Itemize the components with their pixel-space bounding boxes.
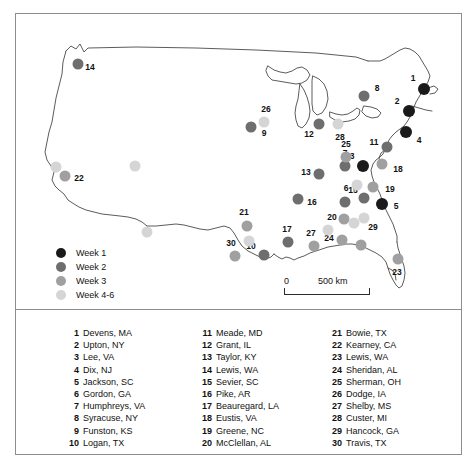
map-dot-12[interactable] xyxy=(314,119,325,130)
camp-list-item: 19Greene, NC xyxy=(197,425,312,437)
map-dot-label-16: 16 xyxy=(307,197,316,207)
camp-list-item-number: 17 xyxy=(197,400,212,412)
map-dot-u4[interactable] xyxy=(130,161,141,172)
camp-list-item: 23Lewis, WA xyxy=(327,351,442,363)
map-dot-14[interactable] xyxy=(73,59,84,70)
map-dot-13[interactable] xyxy=(314,169,325,180)
map-dot-6[interactable] xyxy=(340,197,351,208)
legend-item-week-1: Week 1 xyxy=(56,246,114,260)
legend-swatch-week-3 xyxy=(56,276,66,286)
camp-list-item-number: 25 xyxy=(327,376,342,388)
map-dot-u6[interactable] xyxy=(323,225,334,236)
camp-list-item-number: 19 xyxy=(197,425,212,437)
map-dot-u7[interactable] xyxy=(349,218,360,229)
map-dot-22[interactable] xyxy=(60,171,71,182)
camp-list-item: 25Sherman, OH xyxy=(327,376,442,388)
camp-list-column-2: 11Meade, MD12Grant, IL13Taylor, KY14Lewi… xyxy=(197,327,312,455)
camp-list-item: 2Upton, NY xyxy=(64,339,179,351)
map-dot-label-29: 29 xyxy=(368,222,377,232)
camp-list-item: 4Dix, NJ xyxy=(64,364,179,376)
camp-list-item-number: 13 xyxy=(197,351,212,363)
map-dot-8[interactable] xyxy=(359,91,370,102)
map-dot-u2[interactable] xyxy=(244,236,255,247)
camp-list-item-number: 23 xyxy=(327,351,342,363)
map-dot-u3[interactable] xyxy=(142,227,153,238)
map-dot-11[interactable] xyxy=(382,142,393,153)
camp-list-item-name: Kearney, CA xyxy=(346,339,396,351)
camp-list-item: 5Jackson, SC xyxy=(64,376,179,388)
map-dot-30[interactable] xyxy=(230,251,241,262)
camp-list-item-name: Upton, NY xyxy=(83,339,125,351)
map-legend: Week 1 Week 2 Week 3 Week 4-6 xyxy=(56,246,114,302)
camp-list-item-name: Greene, NC xyxy=(216,425,264,437)
camp-list-item-name: Lee, VA xyxy=(83,351,114,363)
camp-list-item-number: 28 xyxy=(327,412,342,424)
map-dot-label-14: 14 xyxy=(85,62,94,72)
map-dot-u8[interactable] xyxy=(356,240,367,251)
camp-list-item-name: Humphreys, VA xyxy=(83,400,145,412)
map-dot-15[interactable] xyxy=(359,193,370,204)
camp-list-column-1: 1Devens, MA2Upton, NY3Lee, VA4Dix, NJ5Ja… xyxy=(64,327,179,455)
map-dot-21[interactable] xyxy=(242,221,253,232)
map-dot-u5[interactable] xyxy=(352,180,363,191)
map-dot-3[interactable] xyxy=(357,160,369,172)
camp-list: 1Devens, MA2Upton, NY3Lee, VA4Dix, NJ5Ja… xyxy=(16,311,461,455)
camp-list-item: 27Shelby, MS xyxy=(327,400,442,412)
map-dot-25[interactable] xyxy=(341,152,352,163)
camp-list-item-name: Funston, KS xyxy=(83,425,133,437)
camp-list-item-number: 30 xyxy=(327,437,342,449)
scale-bar-zero-label: 0 xyxy=(284,276,289,286)
legend-label-week-2: Week 2 xyxy=(76,262,106,272)
camp-list-item-number: 3 xyxy=(64,351,79,363)
legend-label-week-1: Week 1 xyxy=(76,248,106,258)
camp-list-item: 21Bowie, TX xyxy=(327,327,442,339)
camp-list-item-number: 4 xyxy=(64,364,79,376)
camp-list-item-name: Hancock, GA xyxy=(346,425,399,437)
camp-list-item: 29Hancock, GA xyxy=(327,425,442,437)
map-dot-18[interactable] xyxy=(377,159,388,170)
map-dot-16[interactable] xyxy=(293,194,304,205)
map-dot-label-1: 1 xyxy=(411,73,416,83)
map-dot-24[interactable] xyxy=(337,235,348,246)
map-dot-label-23: 23 xyxy=(392,267,401,277)
legend-swatch-week-1 xyxy=(56,248,66,258)
map-dot-28[interactable] xyxy=(333,119,344,130)
camp-list-item-number: 16 xyxy=(197,388,212,400)
map-dot-label-26: 26 xyxy=(261,104,270,114)
map-dot-17[interactable] xyxy=(283,237,294,248)
map-dot-2[interactable] xyxy=(403,105,415,117)
camp-list-item-name: Devens, MA xyxy=(83,327,132,339)
scale-bar-distance-label: 500 km xyxy=(318,276,348,286)
camp-list-item-number: 20 xyxy=(197,437,212,449)
map-dot-23[interactable] xyxy=(393,254,404,265)
map-dot-9[interactable] xyxy=(246,122,257,133)
camp-list-item-number: 7 xyxy=(64,400,79,412)
map-dot-label-4: 4 xyxy=(417,135,422,145)
map-dot-19[interactable] xyxy=(368,182,379,193)
camp-list-item-name: Sherman, OH xyxy=(346,376,401,388)
camp-list-item-number: 14 xyxy=(197,364,212,376)
map-dot-5[interactable] xyxy=(376,198,388,210)
camp-list-item-name: Travis, TX xyxy=(346,437,387,449)
scale-bar-labels: 0 500 km xyxy=(284,276,376,288)
map-dot-label-13: 13 xyxy=(301,167,310,177)
camp-list-item: 14Lewis, WA xyxy=(197,364,312,376)
map-dot-4[interactable] xyxy=(400,126,412,138)
map-dot-10[interactable] xyxy=(259,250,270,261)
camp-list-item: 30Travis, TX xyxy=(327,437,442,449)
camp-list-item: 17Beauregard, LA xyxy=(197,400,312,412)
legend-label-week-4-6: Week 4-6 xyxy=(76,290,114,300)
camp-list-item-name: Sheridan, AL xyxy=(346,364,398,376)
camp-list-item-name: Eustis, VA xyxy=(216,412,257,424)
map-dot-u1[interactable] xyxy=(51,162,62,173)
camp-list-item-number: 2 xyxy=(64,339,79,351)
scale-bar-ruler xyxy=(284,288,370,295)
camp-list-item: 28Custer, MI xyxy=(327,412,442,424)
camp-list-item-name: Lewis, WA xyxy=(346,351,388,363)
map-dot-label-19: 19 xyxy=(385,184,394,194)
map-dot-1[interactable] xyxy=(418,83,430,95)
camp-list-item-name: Lewis, WA xyxy=(216,364,258,376)
map-dot-27[interactable] xyxy=(309,241,320,252)
map-dot-26[interactable] xyxy=(259,117,270,128)
map-panel: 1234567891011121314151617181920212223242… xyxy=(16,14,461,310)
